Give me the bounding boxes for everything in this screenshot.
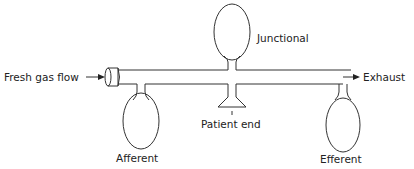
patient-end-connector [218, 84, 246, 115]
junctional-bag [214, 4, 250, 70]
fresh-gas-flow-label: Fresh gas flow [4, 71, 79, 83]
efferent-bag [326, 84, 360, 152]
junctional-label: Junctional [256, 32, 309, 44]
fresh-gas-connector [105, 68, 120, 86]
breathing-system-diagram: Fresh gas flow Afferent Junctional Patie… [0, 0, 414, 169]
exhaust-label: Exhaust [363, 71, 405, 83]
fresh-gas-arrow-icon [86, 74, 105, 80]
exhaust-arrow-icon [343, 74, 360, 80]
afferent-label: Afferent [116, 152, 158, 164]
efferent-label: Efferent [320, 153, 362, 165]
patient-end-label: Patient end [201, 118, 261, 130]
afferent-bag [123, 84, 159, 149]
main-tube [118, 70, 351, 84]
